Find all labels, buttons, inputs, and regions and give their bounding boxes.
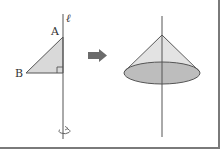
transform-arrow-icon [88,49,107,62]
triangle-figure: ℓ A B [15,12,71,139]
vertex-label-a: A [50,25,60,38]
diagram-canvas: ℓ A B [0,0,221,150]
cone-figure [124,16,200,137]
rotation-icon [59,126,70,133]
vertex-label-b: B [15,67,23,80]
diagram-svg: ℓ A B [0,0,221,150]
axis-label-l: ℓ [66,12,71,25]
